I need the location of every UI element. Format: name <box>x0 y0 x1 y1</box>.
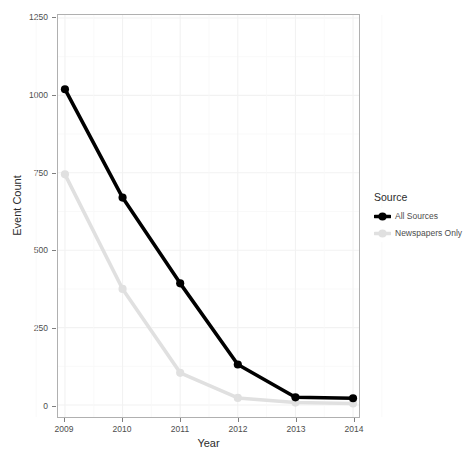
y-tick-mark <box>52 328 56 329</box>
data-point: All Sources 2012: 131 <box>234 360 242 368</box>
y-axis-title: Event Count <box>12 141 23 271</box>
x-tick-label: 2012 <box>229 425 248 434</box>
series-line <box>65 89 353 398</box>
x-tick-label: 2014 <box>345 425 364 434</box>
x-tick-label: 2009 <box>55 425 74 434</box>
data-point: Newspapers Only 2011: 104 <box>176 369 184 377</box>
data-point: All Sources 2013: 25 <box>291 393 299 401</box>
plot-panel: Newspapers Only 2009: 745Newspapers Only… <box>57 14 360 418</box>
data-point: All Sources 2010: 670 <box>118 194 126 202</box>
data-point: All Sources 2014: 22 <box>349 394 357 402</box>
x-tick-label: 2011 <box>171 425 189 434</box>
chart-figure: 025050075010001250 Newspapers Only 2009:… <box>0 0 471 457</box>
data-point: Newspapers Only 2009: 745 <box>61 170 69 178</box>
legend-items: All SourcesNewspapers Only <box>374 208 471 242</box>
x-tick-label: 2013 <box>287 425 306 434</box>
legend: Source All SourcesNewspapers Only <box>374 192 471 242</box>
series-all-sources: All Sources 2009: 1020All Sources 2010: … <box>61 85 357 402</box>
y-tick-label: 0 <box>43 402 48 411</box>
y-tick-mark <box>52 250 56 251</box>
x-tick-mark <box>354 418 355 422</box>
data-point: All Sources 2011: 393 <box>176 279 184 287</box>
legend-item: Newspapers Only <box>374 225 471 242</box>
x-tick-mark <box>296 418 297 422</box>
legend-item-label: Newspapers Only <box>391 229 462 238</box>
x-axis-title: Year <box>57 438 360 449</box>
y-tick-label: 1250 <box>29 13 48 22</box>
data-series-layer: Newspapers Only 2009: 745Newspapers Only… <box>58 15 359 417</box>
legend-item-label: All Sources <box>391 212 438 221</box>
x-tick-mark <box>180 418 181 422</box>
y-axis-tick-labels: 025050075010001250 <box>0 0 48 457</box>
x-tick-mark <box>64 418 65 422</box>
legend-item: All Sources <box>374 208 471 225</box>
data-point: Newspapers Only 2012: 23 <box>234 394 242 402</box>
legend-title: Source <box>374 192 471 203</box>
series-newspapers-only: Newspapers Only 2009: 745Newspapers Only… <box>61 170 357 407</box>
y-tick-mark <box>52 95 56 96</box>
y-tick-mark <box>52 17 56 18</box>
data-point: Newspapers Only 2010: 375 <box>118 285 126 293</box>
data-point: All Sources 2009: 1020 <box>61 85 69 93</box>
legend-key-swatch <box>374 208 391 225</box>
series-line <box>65 174 353 403</box>
y-tick-mark <box>52 173 56 174</box>
y-tick-label: 1000 <box>29 91 48 100</box>
legend-key-swatch <box>374 225 391 242</box>
x-tick-label: 2010 <box>113 425 132 434</box>
x-tick-mark <box>122 418 123 422</box>
x-tick-mark <box>238 418 239 422</box>
y-tick-mark <box>52 406 56 407</box>
